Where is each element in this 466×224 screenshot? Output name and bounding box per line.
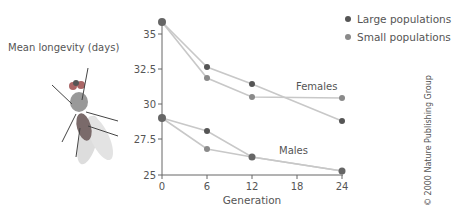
- x-axis-label: Generation: [223, 194, 282, 206]
- svg-text:35: 35: [143, 29, 156, 40]
- legend: Large populations Small populations: [345, 10, 451, 46]
- females-annotation: Females: [296, 81, 337, 92]
- males-annotation: Males: [279, 145, 308, 156]
- fly-icon: [52, 68, 118, 166]
- legend-item-small: Small populations: [345, 28, 451, 46]
- svg-text:32.5: 32.5: [134, 64, 156, 75]
- males-large-line: [162, 118, 342, 171]
- legend-item-large: Large populations: [345, 10, 451, 28]
- copyright-text: © 2000 Nature Publishing Group: [424, 75, 433, 206]
- svg-text:30: 30: [143, 99, 156, 110]
- svg-text:27.5: 27.5: [134, 134, 156, 145]
- dark-dot-icon: [345, 16, 351, 22]
- svg-text:24: 24: [336, 181, 349, 192]
- females-large-line: [162, 22, 342, 121]
- svg-text:6: 6: [204, 181, 210, 192]
- svg-text:12: 12: [246, 181, 259, 192]
- svg-text:0: 0: [159, 181, 165, 192]
- gray-dot-icon: [345, 34, 351, 40]
- svg-text:25: 25: [143, 170, 156, 181]
- svg-text:18: 18: [291, 181, 304, 192]
